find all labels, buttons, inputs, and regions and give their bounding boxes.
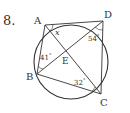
angle-label-32: 32° <box>74 77 86 87</box>
problem-number: 8. <box>3 13 15 28</box>
geometry-diagram: 8. A D B C E x 54° 41° 32° <box>0 0 130 113</box>
label-C: C <box>100 97 108 108</box>
label-A: A <box>33 15 42 26</box>
angle-label-54: 54° <box>88 33 100 43</box>
angle-label-41: 41° <box>40 52 52 62</box>
label-E: E <box>62 56 69 66</box>
label-D: D <box>104 9 112 20</box>
segment-AD <box>45 21 103 25</box>
segment-CB <box>37 74 101 94</box>
angle-arc-D <box>95 27 103 30</box>
label-B: B <box>26 71 33 82</box>
angle-label-x: x <box>55 28 60 37</box>
angle-arc-B <box>38 66 43 69</box>
diagonal-BD <box>37 21 103 74</box>
